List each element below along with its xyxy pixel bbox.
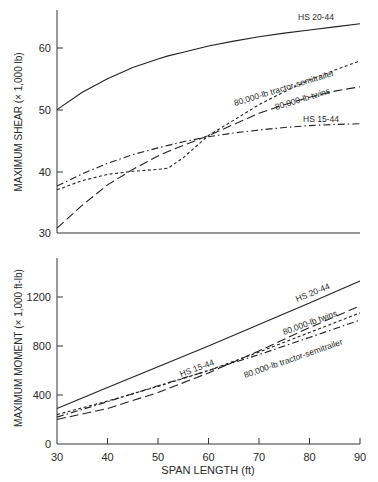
- shear-label-hs1544: HS 15-44: [303, 114, 339, 124]
- series-80-000-lb-twins: [57, 87, 360, 228]
- shear-ytick-label-40: 40: [39, 166, 51, 178]
- moment-y-axis-label: MAXIMUM MOMENT (× 1,000 ft-lb): [13, 269, 24, 427]
- figure: 60 50 40 30 MAXIMUM SHEAR (× 1,000 lb) H…: [0, 0, 378, 482]
- xtick-label-30: 30: [51, 451, 63, 463]
- xtick-label-50: 50: [152, 451, 164, 463]
- xtick-label-60: 60: [202, 451, 214, 463]
- x-axis-label: SPAN LENGTH (ft): [161, 464, 254, 476]
- xtick-label-40: 40: [101, 451, 113, 463]
- moment-ytick-label-1200: 1200: [27, 291, 51, 303]
- shear-series: [57, 24, 360, 228]
- xtick-label-90: 90: [354, 451, 366, 463]
- moment-ytick-label-0: 0: [45, 438, 51, 450]
- shear-y-axis-label: MAXIMUM SHEAR (× 1,000 lb): [13, 52, 24, 191]
- shear-ytick-label-50: 50: [39, 104, 51, 116]
- moment-label-hs2044: HS 20-44: [294, 281, 331, 304]
- moment-label-hs1544: HS 15-44: [178, 357, 215, 379]
- shear-label-hs2044: HS 20-44: [298, 12, 334, 22]
- moment-ytick-label-800: 800: [33, 340, 51, 352]
- moment-ytick-label-400: 400: [33, 389, 51, 401]
- xtick-label-70: 70: [253, 451, 265, 463]
- shear-ytick-label-60: 60: [39, 42, 51, 54]
- xtick-label-80: 80: [303, 451, 315, 463]
- series-hs-15-44: [57, 124, 360, 186]
- shear-ytick-label-30: 30: [39, 227, 51, 239]
